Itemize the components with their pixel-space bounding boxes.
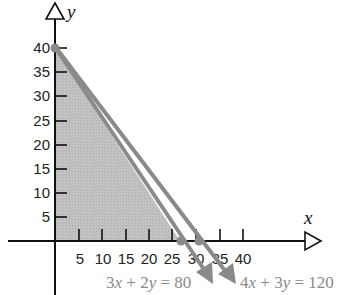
point-0-40 — [51, 44, 60, 53]
label-eq1: 3x + 2y = 80 — [106, 273, 191, 292]
svg-text:30: 30 — [33, 87, 50, 104]
x-axis-label: x — [303, 207, 313, 228]
svg-text:15: 15 — [118, 250, 135, 267]
label-eq2: 4x + 3y = 120 — [240, 273, 334, 292]
svg-text:10: 10 — [95, 250, 112, 267]
svg-text:20: 20 — [141, 250, 158, 267]
x-axis-arrow-icon — [305, 232, 321, 250]
svg-text:40: 40 — [235, 250, 252, 267]
svg-text:25: 25 — [164, 250, 181, 267]
x-tick-labels: 5 10 15 20 25 30 35 40 — [76, 250, 252, 267]
svg-text:5: 5 — [42, 208, 50, 225]
svg-text:10: 10 — [33, 184, 50, 201]
y-tick-labels: 5 10 15 20 25 30 35 40 — [33, 39, 50, 225]
svg-text:35: 35 — [33, 63, 50, 80]
chart: y x 5 10 15 20 25 30 35 40 5 10 15 — [0, 0, 343, 295]
svg-text:20: 20 — [33, 136, 50, 153]
point-26.67-0 — [177, 237, 186, 246]
y-axis-arrow-icon — [46, 3, 64, 19]
svg-text:15: 15 — [33, 160, 50, 177]
svg-text:40: 40 — [33, 39, 50, 56]
point-30-0 — [195, 237, 204, 246]
svg-text:25: 25 — [33, 112, 50, 129]
svg-text:5: 5 — [76, 250, 84, 267]
y-axis-label: y — [65, 1, 76, 22]
